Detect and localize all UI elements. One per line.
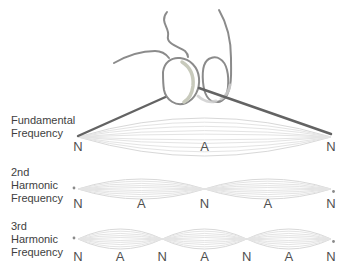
node-label: N — [73, 140, 82, 153]
fundamental-frequency-label: Fundamental Frequency — [11, 114, 75, 140]
node-label: N — [326, 140, 335, 153]
vibration-envelope-line — [78, 229, 331, 249]
antinode-label: A — [116, 250, 125, 263]
vibration-envelope-line — [78, 122, 331, 137]
label-line: Fundamental — [11, 114, 75, 127]
plucked-string-right — [199, 88, 331, 134]
antinode-label: A — [284, 250, 293, 263]
plucked-string-left — [78, 95, 170, 136]
harmonic-envelopes — [73, 118, 335, 249]
string-end-dot — [73, 237, 76, 240]
third-harmonic-label: 3rd Harmonic Frequency — [11, 220, 63, 259]
vibration-envelope-line — [78, 236, 331, 243]
string-end-dot — [332, 190, 335, 193]
node-label: N — [200, 197, 209, 210]
node-label: N — [73, 250, 82, 263]
antinode-label: A — [263, 197, 272, 210]
node-label: N — [326, 250, 335, 263]
string-end-dot — [332, 240, 335, 243]
label-line: Frequency — [11, 127, 75, 140]
antinode-label: A — [137, 197, 146, 210]
node-label: N — [158, 250, 167, 263]
thumb-top-edge-icon — [114, 51, 169, 63]
vibration-envelope-line — [78, 233, 331, 244]
label-line: Frequency — [11, 192, 63, 205]
antinode-label: A — [200, 140, 209, 153]
second-harmonic-label: 2nd Harmonic Frequency — [11, 166, 63, 205]
label-line: Harmonic — [11, 179, 63, 192]
antinode-label: A — [200, 250, 209, 263]
string-end-dot — [73, 187, 76, 190]
label-line: Harmonic — [11, 233, 63, 246]
label-line: 3rd — [11, 220, 63, 233]
node-label: N — [326, 197, 335, 210]
label-line: Frequency — [11, 246, 63, 259]
vibration-envelope-line — [78, 236, 331, 243]
label-line: 2nd — [11, 166, 63, 179]
vibration-envelope-line — [78, 229, 331, 249]
plucking-hand — [114, 10, 231, 104]
vibration-envelope-line — [78, 233, 331, 244]
envelope-harmonic-3 — [73, 229, 335, 249]
middle-finger-icon — [164, 12, 188, 57]
vibration-envelope-line — [78, 134, 331, 137]
node-label: N — [242, 250, 251, 263]
node-label: N — [73, 197, 82, 210]
standing-wave-figure: Fundamental Frequency 2nd Harmonic Frequ… — [0, 0, 350, 276]
